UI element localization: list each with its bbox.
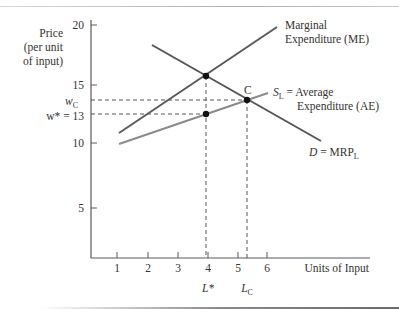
y-tick-5: 5 — [78, 202, 84, 214]
x-tick-6: 6 — [264, 262, 270, 274]
y-tick-15: 15 — [73, 79, 85, 91]
monopsony-wage-point — [203, 111, 209, 117]
me-label-line1: Marginal — [285, 19, 327, 32]
ae-label-line2: Expenditure (AE) — [297, 100, 379, 113]
y-ticks — [91, 25, 97, 208]
point-c — [244, 97, 250, 103]
y-tick-wstar: w* = 13 — [46, 110, 84, 122]
x-tick-1: 1 — [114, 262, 120, 274]
point-c-label: C — [244, 84, 252, 96]
x-ticks — [117, 252, 267, 258]
monopsony-chart: Price (per unit of input) 20 15 wC w* = … — [0, 0, 399, 309]
mrp-label: D = MRPL — [308, 146, 359, 161]
y-axis-label-line3: of input) — [23, 55, 63, 68]
x-axis-label: Units of Input — [304, 262, 369, 275]
y-tick-10: 10 — [73, 137, 85, 149]
ae-label-line1: SL = Average — [273, 86, 333, 101]
x-tick-5: 5 — [235, 262, 241, 274]
me-mrp-intersection-point — [203, 73, 209, 79]
x-tick-4: 4 — [205, 262, 211, 274]
y-tick-20: 20 — [73, 19, 85, 31]
x-marker-lstar: L* — [201, 282, 214, 294]
dashed-guides — [91, 76, 247, 258]
x-marker-lc: LC — [240, 282, 253, 297]
y-tick-wc: wC — [65, 95, 78, 110]
me-label-line2: Expenditure (ME) — [285, 33, 369, 46]
x-tick-3: 3 — [175, 262, 181, 274]
x-tick-2: 2 — [145, 262, 151, 274]
y-axis-label-line1: Price — [39, 27, 63, 39]
y-axis-label-line2: (per unit — [24, 41, 64, 54]
